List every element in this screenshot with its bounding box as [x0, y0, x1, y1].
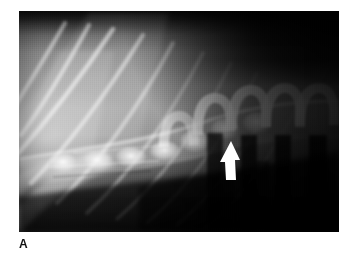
- white-arrow-marker: [19, 11, 339, 232]
- radiograph-vignette: [19, 11, 339, 232]
- intervertebral-gas-bands: [207, 133, 327, 229]
- vertebral-bodies: [48, 112, 271, 173]
- film-grain-texture: [19, 11, 339, 232]
- scapula-shadow: [19, 147, 115, 232]
- endplate-striations: [49, 145, 169, 177]
- ventral-dark-field: [19, 151, 339, 232]
- rib-group: [19, 23, 301, 227]
- spinous-processes: [159, 83, 339, 147]
- radiograph-right-dark-field: [19, 11, 339, 232]
- anatomy-overlay: [19, 11, 339, 232]
- panel-label: A: [19, 238, 28, 251]
- figure-panel: A: [0, 0, 358, 255]
- vertebral-column-band: [19, 101, 339, 187]
- radiograph-topright-dark-corner: [19, 11, 339, 232]
- soft-tissue-wedge: [19, 13, 169, 216]
- radiograph-tone-base: [19, 11, 339, 232]
- radiograph-image: [19, 11, 339, 232]
